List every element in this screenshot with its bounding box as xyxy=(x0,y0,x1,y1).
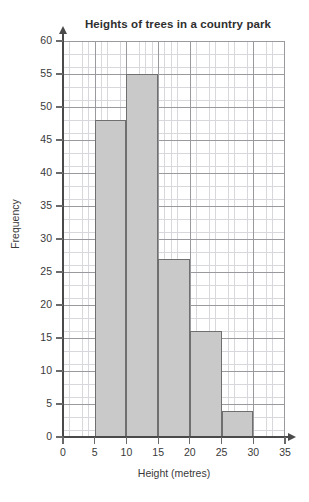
y-tick-55 xyxy=(56,73,63,74)
y-tick-30 xyxy=(56,238,63,239)
bar-25-30 xyxy=(222,411,254,437)
y-tick-label-15: 15 xyxy=(26,331,52,343)
x-tick-5 xyxy=(94,437,95,444)
x-tick-15 xyxy=(158,437,159,444)
bar-10-15 xyxy=(126,74,158,437)
y-tick-35 xyxy=(56,205,63,206)
y-axis-arrow-icon xyxy=(59,26,67,34)
bars-layer xyxy=(63,41,285,437)
bar-15-20 xyxy=(158,259,190,437)
plot-area xyxy=(63,41,285,437)
y-tick-10 xyxy=(56,370,63,371)
x-axis-title: Height (metres) xyxy=(63,467,285,479)
y-tick-label-5: 5 xyxy=(26,397,52,409)
y-tick-label-40: 40 xyxy=(26,166,52,178)
bar-5-10 xyxy=(95,120,127,437)
x-tick-label-10: 10 xyxy=(112,446,140,458)
bar-20-25 xyxy=(190,331,222,437)
y-tick-50 xyxy=(56,106,63,107)
y-tick-label-30: 30 xyxy=(26,232,52,244)
x-tick-30 xyxy=(253,437,254,444)
x-tick-label-5: 5 xyxy=(81,446,109,458)
x-tick-label-15: 15 xyxy=(144,446,172,458)
y-tick-45 xyxy=(56,139,63,140)
y-tick-label-0: 0 xyxy=(26,430,52,442)
x-tick-20 xyxy=(189,437,190,444)
x-tick-10 xyxy=(126,437,127,444)
y-axis-title: Frequency xyxy=(9,174,21,274)
y-tick-40 xyxy=(56,172,63,173)
x-tick-label-20: 20 xyxy=(176,446,204,458)
y-tick-label-20: 20 xyxy=(26,298,52,310)
x-tick-35 xyxy=(284,437,285,444)
y-tick-label-60: 60 xyxy=(26,34,52,46)
x-tick-label-30: 30 xyxy=(239,446,267,458)
x-tick-label-25: 25 xyxy=(208,446,236,458)
y-tick-label-25: 25 xyxy=(26,265,52,277)
y-tick-20 xyxy=(56,304,63,305)
x-axis-line xyxy=(62,436,289,438)
chart-title: Heights of trees in a country park xyxy=(56,18,300,30)
y-axis-line xyxy=(62,33,64,438)
y-tick-label-50: 50 xyxy=(26,100,52,112)
x-tick-25 xyxy=(221,437,222,444)
y-tick-15 xyxy=(56,337,63,338)
y-tick-25 xyxy=(56,271,63,272)
x-tick-0 xyxy=(62,437,63,444)
x-tick-label-0: 0 xyxy=(49,446,77,458)
y-tick-label-35: 35 xyxy=(26,199,52,211)
y-tick-60 xyxy=(56,40,63,41)
x-axis-arrow-icon xyxy=(288,433,296,441)
y-tick-label-10: 10 xyxy=(26,364,52,376)
x-tick-label-35: 35 xyxy=(271,446,299,458)
y-tick-5 xyxy=(56,403,63,404)
y-tick-label-45: 45 xyxy=(26,133,52,145)
histogram-chart: Heights of trees in a country park 05101… xyxy=(0,0,309,502)
y-tick-label-55: 55 xyxy=(26,67,52,79)
